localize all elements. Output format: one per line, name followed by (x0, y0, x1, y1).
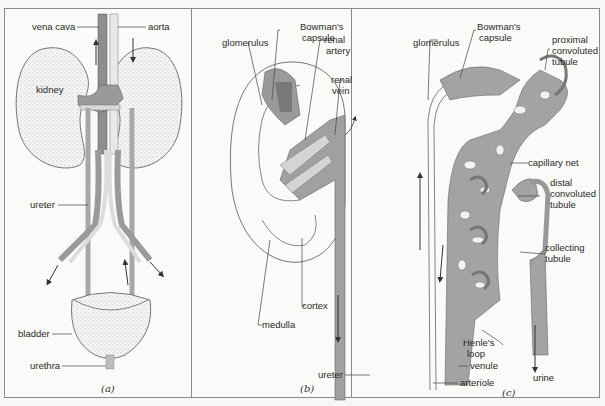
label-distal-3: tubule (550, 200, 576, 210)
label-henles-2: loop (467, 349, 485, 359)
label-collecting-1: collecting (545, 243, 585, 253)
label-henles-1: Henle's (463, 338, 494, 348)
label-venule: venule (470, 361, 498, 371)
label-capillary-net: capillary net (528, 158, 579, 168)
caption-c: (c) (502, 387, 515, 398)
label-urine: urine (533, 373, 554, 383)
label-proximal-2: convoluted (552, 46, 598, 56)
label-collecting-2: tubule (545, 254, 571, 264)
label-distal-2: convoluted (550, 189, 596, 199)
label-arteriole: arteriole (460, 378, 494, 388)
label-bowmans-c-2: capsule (479, 33, 512, 43)
label-distal-1: distal (550, 178, 572, 188)
panel-c-drawing (0, 0, 605, 406)
label-proximal-3: tubule (552, 57, 578, 67)
label-glomerulus-c: glomerulus (413, 38, 459, 48)
label-bowmans-c-1: Bowman's (477, 22, 521, 32)
label-proximal-1: proximal (552, 35, 588, 45)
